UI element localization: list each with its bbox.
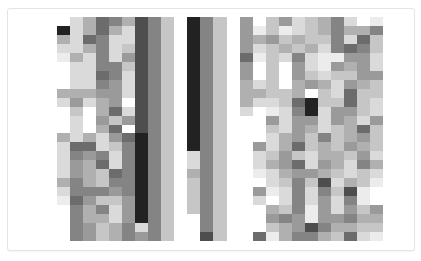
grid-cell: [305, 187, 318, 196]
grid-cell: [187, 205, 200, 214]
grid-cell: [370, 53, 383, 62]
grid-cell: [174, 62, 187, 71]
grid-cell: [318, 17, 331, 26]
grid-cell: [357, 169, 370, 178]
grid-cell: [200, 125, 213, 134]
grid-cell: [370, 17, 383, 26]
grid-cell: [344, 62, 357, 71]
grid-cell: [279, 125, 292, 134]
grid-cell: [253, 125, 266, 134]
grid-cell: [200, 160, 213, 169]
grid-cell: [57, 214, 70, 223]
grid-cell: [266, 62, 279, 71]
grid-cell: [357, 26, 370, 35]
grid-cell: [83, 116, 96, 125]
grid-cell: [240, 178, 253, 187]
grid-cell: [187, 44, 200, 53]
grid-cell: [227, 26, 240, 35]
grid-cell: [227, 160, 240, 169]
grid-cell: [57, 107, 70, 116]
grid-cell: [253, 169, 266, 178]
grid-cell: [292, 214, 305, 223]
grid-cell: [370, 178, 383, 187]
grid-cell: [122, 80, 135, 89]
grid-cell: [83, 232, 96, 241]
grid-cell: [266, 53, 279, 62]
grid-cell: [70, 17, 83, 26]
grid-cell: [227, 116, 240, 125]
grid-cell: [187, 89, 200, 98]
grid-cell: [344, 187, 357, 196]
grid-cell: [253, 62, 266, 71]
grid-cell: [148, 98, 161, 107]
grid-cell: [148, 196, 161, 205]
grid-cell: [96, 116, 109, 125]
grid-cell: [187, 133, 200, 142]
grid-cell: [344, 35, 357, 44]
grid-cell: [266, 223, 279, 232]
grid-cell: [266, 133, 279, 142]
grid-cell: [318, 89, 331, 98]
grid-cell: [227, 133, 240, 142]
grid-cell: [227, 71, 240, 80]
grid-cell: [279, 71, 292, 80]
grid-cell: [174, 133, 187, 142]
grid-cell: [213, 116, 226, 125]
grid-cell: [253, 196, 266, 205]
grid-cell: [135, 142, 148, 151]
grid-cell: [174, 44, 187, 53]
grid-cell: [109, 44, 122, 53]
grid-cell: [318, 98, 331, 107]
grid-cell: [305, 107, 318, 116]
grid-cell: [200, 116, 213, 125]
grid-cell: [266, 44, 279, 53]
grid-cell: [187, 35, 200, 44]
grid-cell: [148, 160, 161, 169]
grid-cell: [357, 214, 370, 223]
grid-cell: [266, 178, 279, 187]
grid-cell: [292, 62, 305, 71]
grid-cell: [292, 26, 305, 35]
grid-cell: [344, 205, 357, 214]
grid-cell: [109, 214, 122, 223]
grid-cell: [57, 80, 70, 89]
grid-cell: [240, 80, 253, 89]
grid-cell: [109, 98, 122, 107]
grid-cell: [344, 17, 357, 26]
grid-cell: [279, 205, 292, 214]
grid-cell: [305, 133, 318, 142]
grid-cell: [161, 53, 174, 62]
grid-cell: [305, 232, 318, 241]
grid-cell: [370, 125, 383, 134]
grid-cell: [213, 89, 226, 98]
grid-cell: [253, 26, 266, 35]
grid-cell: [331, 133, 344, 142]
grid-cell: [148, 223, 161, 232]
grid-cell: [122, 44, 135, 53]
grid-cell: [240, 169, 253, 178]
grid-cell: [331, 17, 344, 26]
grid-cell: [70, 142, 83, 151]
grid-cell: [292, 71, 305, 80]
grid-cell: [122, 98, 135, 107]
grid-cell: [135, 223, 148, 232]
grid-cell: [135, 62, 148, 71]
grid-cell: [200, 205, 213, 214]
grid-cell: [187, 125, 200, 134]
grid-cell: [331, 62, 344, 71]
grid-cell: [161, 35, 174, 44]
grid-cell: [96, 53, 109, 62]
grid-cell: [174, 116, 187, 125]
grid-cell: [122, 133, 135, 142]
grid-cell: [96, 142, 109, 151]
grid-cell: [83, 17, 96, 26]
grid-cell: [57, 178, 70, 187]
grid-cell: [57, 223, 70, 232]
grid-cell: [331, 187, 344, 196]
grid-cell: [370, 196, 383, 205]
grid-cell: [148, 178, 161, 187]
grid-cell: [357, 62, 370, 71]
grid-cell: [292, 232, 305, 241]
grid-cell: [187, 169, 200, 178]
grid-cell: [370, 26, 383, 35]
